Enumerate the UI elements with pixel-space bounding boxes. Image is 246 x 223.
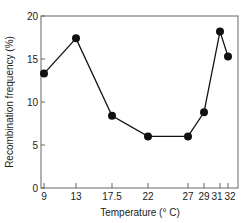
x-axis-label: Temperature (° C) xyxy=(100,207,180,218)
y-tick-label: 10 xyxy=(27,97,39,108)
x-tick-label: 17.5 xyxy=(102,191,122,202)
data-line xyxy=(44,31,228,136)
x-tick-label: 29 xyxy=(198,191,210,202)
data-markers xyxy=(40,27,232,140)
data-point xyxy=(72,34,80,42)
y-axis-label: Recombination frequency (%) xyxy=(4,36,15,168)
x-tick-label: 32 xyxy=(224,191,236,202)
data-point xyxy=(200,108,208,116)
y-tick-label: 20 xyxy=(27,11,39,22)
x-tick-label: 27 xyxy=(182,191,194,202)
data-point xyxy=(224,52,232,60)
line-chart: 05101520 91317.52227293132 Recombination… xyxy=(0,0,246,223)
y-tick-label: 5 xyxy=(32,140,38,151)
data-point xyxy=(40,70,48,78)
x-tick-label: 22 xyxy=(142,191,154,202)
y-tick-label: 0 xyxy=(32,183,38,194)
data-point xyxy=(216,27,224,35)
data-point xyxy=(144,132,152,140)
y-axis: 05101520 xyxy=(27,11,45,194)
x-tick-label: 13 xyxy=(70,191,82,202)
data-point xyxy=(184,132,192,140)
data-point xyxy=(108,112,116,120)
x-tick-label: 31 xyxy=(211,191,223,202)
x-tick-label: 9 xyxy=(41,191,47,202)
x-axis: 91317.52227293132 xyxy=(41,183,236,202)
y-tick-label: 15 xyxy=(27,54,39,65)
plot-frame xyxy=(41,16,238,188)
